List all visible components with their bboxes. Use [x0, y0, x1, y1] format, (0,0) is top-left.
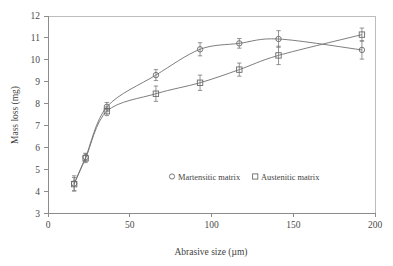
data-point-circle	[276, 36, 281, 41]
data-series-layer	[71, 28, 364, 191]
y-tick-label: 8	[35, 99, 40, 109]
data-point-square	[197, 80, 202, 85]
x-tick-label: 50	[125, 220, 135, 230]
series-line	[74, 39, 362, 184]
y-tick-label: 9	[35, 77, 40, 87]
y-tick-label: 11	[31, 33, 40, 43]
x-axis-title: Abrasive size (µm)	[174, 247, 247, 258]
data-point-circle	[359, 47, 364, 52]
data-point-square	[104, 109, 109, 114]
legend-label-martensitic: Martensitic matrix	[178, 173, 241, 182]
y-axis-ticks	[44, 16, 48, 213]
chart-figure: 12 11 10 9 8 7 6 5 4 3 Mass loss (mg)	[0, 0, 393, 266]
legend-entry-martensitic: Martensitic matrix	[169, 173, 241, 182]
x-tick-label: 0	[46, 220, 51, 230]
x-tick-label: 150	[286, 220, 301, 230]
y-axis-title: Mass loss (mg)	[10, 86, 21, 144]
data-point-square	[71, 181, 76, 186]
data-point-square	[153, 91, 158, 96]
plot-frame	[48, 16, 375, 213]
open-square-marker	[253, 174, 258, 179]
data-point-square	[83, 156, 88, 161]
x-axis: 0 50 100 150 200 Abrasive size (µm)	[46, 213, 383, 258]
y-tick-label: 6	[35, 143, 40, 153]
y-tick-label: 5	[35, 165, 40, 175]
series-austenitic	[71, 28, 364, 191]
y-tick-label: 4	[35, 187, 40, 197]
data-point-square	[359, 32, 364, 37]
y-axis: 12 11 10 9 8 7 6 5 4 3 Mass loss (mg)	[10, 11, 48, 218]
data-point-square	[276, 53, 281, 58]
data-point-circle	[153, 72, 158, 77]
legend-label-austenitic: Austenitic matrix	[261, 173, 320, 182]
data-point-circle	[197, 47, 202, 52]
x-axis-tick-labels: 0 50 100 150 200	[46, 220, 383, 230]
x-tick-label: 100	[204, 220, 219, 230]
legend-entry-austenitic: Austenitic matrix	[253, 173, 321, 182]
x-tick-label: 200	[368, 220, 383, 230]
y-tick-label: 7	[35, 121, 40, 131]
y-tick-label: 3	[35, 209, 40, 219]
y-axis-tick-labels: 12 11 10 9 8 7 6 5 4 3	[31, 11, 41, 218]
data-point-square	[237, 67, 242, 72]
data-point-circle	[237, 41, 242, 46]
chart-legend: Martensitic matrix Austenitic matrix	[169, 173, 320, 182]
series-martensitic	[71, 31, 364, 191]
open-circle-marker	[169, 174, 174, 179]
series-line	[74, 35, 362, 185]
y-tick-label: 10	[31, 55, 41, 65]
y-tick-label: 12	[31, 11, 41, 21]
x-axis-ticks	[48, 213, 375, 217]
mass-loss-vs-abrasive-size-chart: 12 11 10 9 8 7 6 5 4 3 Mass loss (mg)	[0, 0, 393, 266]
